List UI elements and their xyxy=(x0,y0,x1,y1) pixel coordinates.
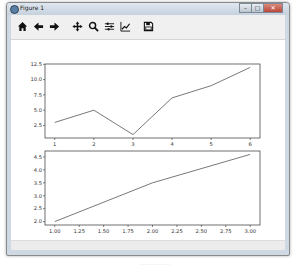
arrow-right-icon xyxy=(49,21,60,32)
caption-text: ……………… xyxy=(70,260,240,268)
y-tick-label: 4.0 xyxy=(34,167,42,173)
x-tick-label: 2.00 xyxy=(147,228,159,234)
status-bar xyxy=(11,240,285,250)
save-figure-button[interactable] xyxy=(142,20,155,33)
y-tick-label: 2.5 xyxy=(34,122,42,128)
y-tick-label: 3.0 xyxy=(34,193,42,199)
arrow-left-icon xyxy=(33,21,44,32)
floppy-disk-icon xyxy=(143,21,154,32)
subplot-1[interactable]: 1234562.55.07.510.012.5 xyxy=(30,61,260,147)
magnifier-icon xyxy=(88,21,99,32)
y-tick-label: 4.5 xyxy=(34,154,42,160)
x-tick-label: 2.75 xyxy=(220,228,232,234)
y-tick-label: 2.0 xyxy=(34,218,42,224)
x-tick-label: 1.00 xyxy=(49,228,61,234)
subplot-2[interactable]: 1.001.251.501.752.002.252.502.753.002.02… xyxy=(34,151,260,234)
home-icon xyxy=(17,21,28,32)
axes-frame xyxy=(45,64,260,138)
y-tick-label: 12.5 xyxy=(30,61,42,67)
zoom-button[interactable] xyxy=(87,20,100,33)
x-tick-label: 3 xyxy=(131,141,134,147)
window-controls: – □ ✕ xyxy=(240,3,283,12)
x-tick-label: 4 xyxy=(170,141,174,147)
window-title: Figure 1 xyxy=(20,4,44,11)
app-icon xyxy=(10,5,19,14)
x-tick-label: 6 xyxy=(249,141,252,147)
y-tick-label: 2.5 xyxy=(34,205,42,211)
y-tick-label: 3.5 xyxy=(34,180,42,186)
figure-plot-area[interactable]: 1234562.55.07.510.012.51.001.251.501.752… xyxy=(11,40,285,247)
axes-frame xyxy=(45,151,260,225)
y-tick-label: 7.5 xyxy=(34,92,42,98)
forward-button[interactable] xyxy=(48,20,61,33)
x-tick-label: 2 xyxy=(92,141,95,147)
figure-window: Figure 1 – □ ✕ xyxy=(6,2,290,256)
back-button[interactable] xyxy=(32,20,45,33)
home-button[interactable] xyxy=(16,20,29,33)
configure-subplots-button[interactable] xyxy=(103,20,116,33)
x-tick-label: 2.50 xyxy=(196,228,208,234)
y-tick-label: 10.0 xyxy=(30,76,42,82)
close-button[interactable]: ✕ xyxy=(263,3,283,13)
x-tick-label: 5 xyxy=(209,141,212,147)
figure-canvas[interactable]: 1234562.55.07.510.012.51.001.251.501.752… xyxy=(11,40,285,250)
move-icon xyxy=(72,21,83,32)
edit-axis-button[interactable] xyxy=(119,20,132,33)
line-chart-icon xyxy=(120,21,131,32)
x-tick-label: 2.25 xyxy=(171,228,183,234)
title-bar[interactable]: Figure 1 – □ ✕ xyxy=(7,3,289,15)
x-tick-label: 1.25 xyxy=(73,228,85,234)
y-tick-label: 5.0 xyxy=(34,107,42,113)
x-tick-label: 3.00 xyxy=(244,228,256,234)
x-tick-label: 1 xyxy=(53,141,56,147)
pan-button[interactable] xyxy=(71,20,84,33)
figure-client-area: 1234562.55.07.510.012.51.001.251.501.752… xyxy=(11,15,285,250)
navigation-toolbar xyxy=(11,15,285,40)
sliders-icon xyxy=(104,21,115,32)
x-tick-label: 1.75 xyxy=(122,228,134,234)
x-tick-label: 1.50 xyxy=(98,228,110,234)
